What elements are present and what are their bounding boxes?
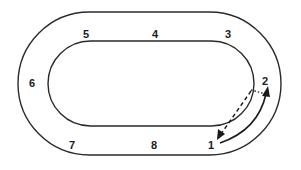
outer-track-boundary: [18, 12, 281, 155]
position-label-7: 7: [69, 139, 75, 151]
dashed-arrowhead-icon: [217, 129, 225, 140]
position-label-5: 5: [83, 28, 89, 40]
position-label-4: 4: [152, 28, 159, 40]
inner-track-boundary: [48, 41, 254, 126]
position-label-2: 2: [262, 75, 268, 87]
position-label-3: 3: [225, 28, 231, 40]
position-label-1: 1: [208, 139, 214, 151]
position-label-8: 8: [151, 139, 157, 151]
position-label-6: 6: [29, 77, 35, 89]
solid-arrowhead-icon: [262, 86, 270, 97]
oval-track-diagram: 1 2 3 4 5 6 7 8: [0, 0, 301, 170]
